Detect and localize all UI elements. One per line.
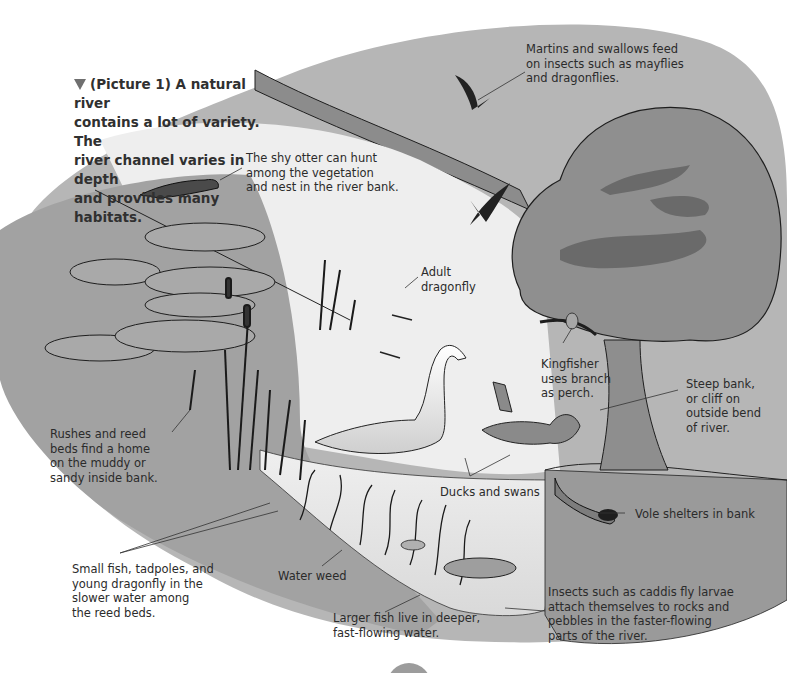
label-larger-fish: Larger fish live in deeper, fast-flowing… [333, 611, 513, 640]
label-martins-swallows: Martins and swallows feed on insects suc… [526, 42, 706, 86]
caption-text: (Picture 1) A natural river contains a l… [74, 76, 260, 225]
figure-caption: (Picture 1) A natural river contains a l… [74, 56, 284, 227]
label-adult-dragonfly: Adult dragonfly [421, 265, 491, 294]
label-small-fish: Small fish, tadpoles, and young dragonfl… [72, 562, 242, 620]
label-otter: The shy otter can hunt among the vegetat… [246, 151, 416, 195]
down-triangle-icon [74, 79, 86, 90]
label-vole: Vole shelters in bank [635, 507, 785, 522]
label-steep-bank: Steep bank, or cliff on outside bend of … [686, 377, 786, 435]
label-water-weed: Water weed [278, 569, 368, 584]
label-kingfisher: Kingfisher uses branch as perch. [541, 357, 631, 401]
label-insects-caddis: Insects such as caddis fly larvae attach… [548, 585, 778, 643]
label-ducks-swans: Ducks and swans [440, 485, 570, 500]
page-marker [387, 663, 431, 673]
kingfisher-bird [566, 313, 578, 329]
label-rushes-reed-beds: Rushes and reed beds find a home on the … [50, 427, 190, 485]
